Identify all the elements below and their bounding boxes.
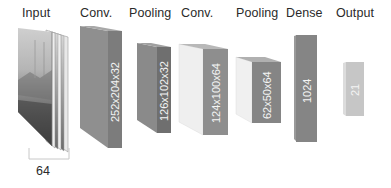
dense-block: 1024 — [294, 35, 317, 142]
pool2-dims: 62x50x64 — [261, 71, 273, 119]
pool1-block: 126x102x32 — [137, 43, 171, 133]
pool2-block: 62x50x64 — [236, 57, 281, 123]
conv1-dims: 252x204x32 — [109, 62, 121, 122]
input-image-stack — [18, 28, 68, 152]
conv1-block: 252x204x32 — [80, 26, 122, 148]
output-block: 21 — [343, 62, 364, 116]
pool1-dims: 126x102x32 — [158, 61, 170, 121]
output-dims: 21 — [349, 84, 361, 96]
diagram-canvas: 252x204x32 126x102x32 124x100x64 62x50x6… — [0, 0, 391, 188]
conv2-block: 124x100x64 — [179, 44, 228, 135]
dense-dims: 1024 — [301, 79, 313, 103]
cnn-diagram: Input Conv. Pooling Conv. Pooling Dense … — [0, 0, 391, 188]
input-depth-label: 64 — [36, 164, 50, 178]
conv2-dims: 124x100x64 — [210, 63, 222, 123]
